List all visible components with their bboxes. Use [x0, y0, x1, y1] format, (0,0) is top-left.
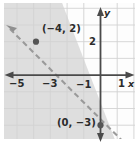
boundary-line-arrow-end: [122, 144, 133, 151]
data-point-b: [97, 122, 103, 128]
x-tick-label-neg5: −5: [9, 79, 24, 89]
y-axis-label: y: [104, 8, 110, 18]
data-point-a: [33, 39, 39, 45]
x-tick-label-1: 1: [118, 79, 125, 89]
y-tick-label-neg1: −1: [76, 80, 91, 90]
y-tick-label-2: 2: [89, 37, 96, 47]
coordinate-plane-figure: −5 −3 1 2 −1 x y (−4, 2) (0, −3): [0, 0, 139, 151]
point-label-a: (−4, 2): [42, 24, 81, 34]
x-axis-label: x: [128, 79, 134, 89]
point-label-b: (0, −3): [57, 118, 96, 128]
x-tick-label-neg3: −3: [42, 79, 57, 89]
